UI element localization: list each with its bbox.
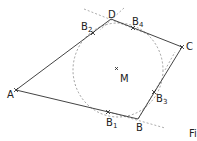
label-b: B [136,122,143,133]
label-b3: B3 [156,93,167,106]
caption-fragment: Fi [189,128,197,139]
label-a: A [7,89,14,100]
quadrilateral-abcd [16,19,182,119]
label-b2: B2 [81,21,92,34]
label-d: D [108,9,116,20]
label-c: C [186,41,193,52]
label-m: M [120,73,129,84]
quadrilateral-diagram: A B C D M B1 B2 B3 B4 Fi [0,0,197,141]
label-b1: B1 [106,117,117,130]
